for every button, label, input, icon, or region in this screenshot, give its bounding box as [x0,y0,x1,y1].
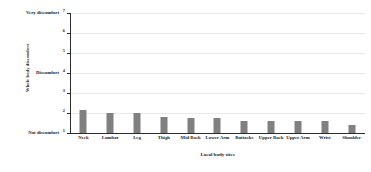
x-axis-title: Local body sites [70,152,365,157]
x-axis-category-label: Shoulder [338,135,365,141]
bar-slot [177,13,204,133]
bar-slot [285,13,312,133]
bar [294,121,301,133]
y-axis-tick-label: 6 [63,29,65,33]
y-axis: 1Not discomfort234Discomfort567Very disc… [0,0,70,172]
bar [80,110,87,133]
bar-chart: Whole body discomfort 1Not discomfort234… [0,0,371,172]
x-axis-category-label: Thigh [150,135,177,141]
bar-slot [258,13,285,133]
y-axis-anchor-label: Discomfort [36,71,59,76]
y-axis-tick-label: 1 [63,129,65,133]
bar-slot [70,13,97,133]
y-axis-tick-label: 4 [63,69,65,73]
bar [107,113,114,133]
x-axis-category-label: Buttocks [231,135,258,141]
x-axis-category-label: Upper Back [258,135,285,141]
bar-slot [311,13,338,133]
x-axis-category-label: Leg [124,135,151,141]
bar [134,113,141,133]
bars-layer [70,13,365,133]
bar [187,118,194,133]
bar [321,121,328,133]
bar-slot [97,13,124,133]
y-axis-tick-label: 5 [63,49,65,53]
y-axis-tick-label: 7 [63,9,65,13]
y-axis-tick-label: 3 [63,89,65,93]
bar-slot [150,13,177,133]
bar-slot [338,13,365,133]
x-axis-category-label: Lumbar [97,135,124,141]
bar [348,125,355,133]
bar [241,121,248,133]
bar [268,121,275,133]
x-axis-category-label: Neck [70,135,97,141]
y-axis-anchor-label: Not discomfort [28,131,59,136]
x-axis-line [70,133,365,134]
bar-slot [204,13,231,133]
x-axis-category-label: Wrist [311,135,338,141]
x-axis-category-label: Lower Arm [204,135,231,141]
bar-slot [231,13,258,133]
x-axis-category-label: Upper Arm [285,135,312,141]
y-axis-anchor-label: Very discomfort [26,11,59,16]
y-axis-tick-label: 2 [63,109,65,113]
x-axis-category-label: Mid Back [177,135,204,141]
bar-slot [124,13,151,133]
bar [214,118,221,133]
bar [160,117,167,133]
